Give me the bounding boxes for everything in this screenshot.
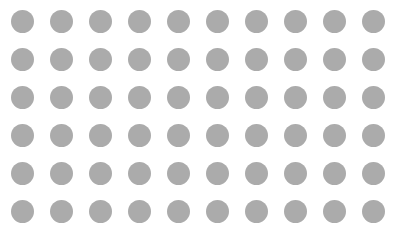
grid-dot	[206, 48, 229, 71]
grid-dot	[89, 86, 112, 109]
grid-dot	[11, 10, 34, 33]
grid-dot	[50, 10, 73, 33]
grid-dot	[128, 200, 151, 223]
grid-dot	[128, 48, 151, 71]
grid-dot	[284, 10, 307, 33]
grid-dot	[167, 162, 190, 185]
grid-dot	[11, 162, 34, 185]
grid-dot	[206, 200, 229, 223]
grid-dot	[362, 162, 385, 185]
grid-dot	[206, 162, 229, 185]
grid-dot	[167, 48, 190, 71]
grid-dot	[245, 48, 268, 71]
grid-dot	[167, 200, 190, 223]
grid-dot	[206, 10, 229, 33]
grid-dot	[89, 124, 112, 147]
grid-dot	[128, 124, 151, 147]
grid-dot	[89, 200, 112, 223]
grid-dot	[50, 124, 73, 147]
grid-dot	[206, 86, 229, 109]
grid-dot	[362, 48, 385, 71]
grid-dot	[50, 48, 73, 71]
grid-dot	[284, 86, 307, 109]
grid-dot	[284, 200, 307, 223]
grid-dot	[89, 10, 112, 33]
grid-dot	[323, 86, 346, 109]
dot-grid	[0, 0, 405, 240]
grid-dot	[50, 200, 73, 223]
grid-dot	[362, 200, 385, 223]
grid-dot	[50, 86, 73, 109]
grid-dot	[167, 124, 190, 147]
grid-dot	[284, 124, 307, 147]
grid-dot	[323, 124, 346, 147]
grid-dot	[206, 124, 229, 147]
grid-dot	[284, 162, 307, 185]
grid-dot	[245, 200, 268, 223]
grid-dot	[323, 162, 346, 185]
grid-dot	[128, 10, 151, 33]
grid-dot	[245, 162, 268, 185]
grid-dot	[245, 86, 268, 109]
grid-dot	[323, 200, 346, 223]
grid-dot	[362, 86, 385, 109]
grid-dot	[50, 162, 73, 185]
grid-dot	[11, 200, 34, 223]
grid-dot	[245, 124, 268, 147]
grid-dot	[167, 10, 190, 33]
grid-dot	[284, 48, 307, 71]
grid-dot	[167, 86, 190, 109]
grid-dot	[89, 48, 112, 71]
grid-dot	[245, 10, 268, 33]
grid-dot	[128, 162, 151, 185]
grid-dot	[11, 48, 34, 71]
grid-dot	[362, 10, 385, 33]
grid-dot	[11, 86, 34, 109]
grid-dot	[323, 48, 346, 71]
grid-dot	[89, 162, 112, 185]
grid-dot	[323, 10, 346, 33]
grid-dot	[362, 124, 385, 147]
grid-dot	[11, 124, 34, 147]
grid-dot	[128, 86, 151, 109]
